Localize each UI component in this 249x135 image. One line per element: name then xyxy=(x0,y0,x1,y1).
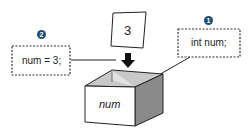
step-1-badge: 1 xyxy=(204,16,213,25)
declaration-code: int num; xyxy=(191,37,227,48)
step-2-badge: 2 xyxy=(37,30,46,39)
down-arrow-icon xyxy=(121,53,135,68)
box-label: num xyxy=(99,98,120,110)
assignment-code: num = 3; xyxy=(22,55,61,66)
card-value: 3 xyxy=(124,23,131,38)
